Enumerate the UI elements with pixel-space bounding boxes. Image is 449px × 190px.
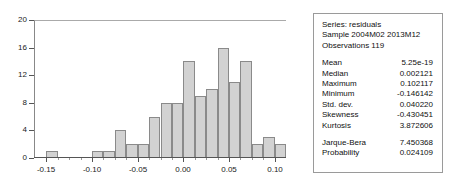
statistic-key: Probability: [322, 148, 359, 158]
x-axis-tick: [46, 158, 47, 162]
x-axis-label: -0.15: [26, 165, 66, 174]
y-axis-label: 0: [1, 154, 27, 162]
y-axis-tick: [29, 103, 34, 104]
histogram-bar: [275, 144, 286, 158]
y-axis-label: 4: [1, 126, 27, 134]
histogram-bar: [206, 89, 217, 158]
y-axis-tick: [29, 75, 34, 76]
histogram-bar: [240, 61, 251, 158]
x-axis-label: -0.10: [72, 165, 112, 174]
x-axis-label: -0.05: [118, 165, 158, 174]
histogram-bar: [126, 144, 137, 158]
statistics-header: Series: residualsSample 2004M02 2013M12O…: [322, 20, 435, 51]
statistic-row: Minimum-0.146142: [322, 89, 435, 99]
x-axis-minor-tick: [172, 158, 173, 160]
statistic-key: Jarque-Bera: [322, 138, 366, 148]
y-axis-label: 20: [1, 16, 27, 24]
statistic-value: 5.25e-19: [401, 58, 433, 68]
x-axis-tick: [138, 158, 139, 162]
histogram-bar: [263, 137, 274, 158]
statistics-header-line: Sample 2004M02 2013M12: [322, 30, 435, 40]
normality-test-row: Probability0.024109: [322, 148, 435, 158]
statistic-key: Maximum: [322, 79, 357, 89]
statistic-value: 0.002121: [400, 69, 433, 79]
x-axis-minor-tick: [69, 158, 70, 160]
statistic-key: Median: [322, 69, 348, 79]
x-axis-minor-tick: [149, 158, 150, 160]
x-axis-minor-tick: [161, 158, 162, 160]
statistics-header-line: Observations 119: [322, 41, 435, 51]
statistic-key: Mean: [322, 58, 342, 68]
x-axis-minor-tick: [58, 158, 59, 160]
histogram-bar: [252, 144, 263, 158]
x-axis-minor-tick: [126, 158, 127, 160]
histogram-bar: [172, 103, 183, 158]
x-axis-minor-tick: [240, 158, 241, 160]
statistics-header-line: Series: residuals: [322, 20, 435, 30]
y-axis-tick: [29, 130, 34, 131]
statistic-key: Std. dev.: [322, 100, 353, 110]
y-axis-label: 16: [1, 44, 27, 52]
histogram-bar: [149, 117, 160, 158]
histogram-bar: [218, 48, 229, 158]
statistic-key: Kurtosis: [322, 121, 351, 131]
normality-test-row: Jarque-Bera7.450368: [322, 138, 435, 148]
y-axis-label: 12: [1, 71, 27, 79]
x-axis-minor-tick: [218, 158, 219, 160]
statistic-value: 0.040220: [400, 100, 433, 110]
x-axis-tick: [183, 158, 184, 162]
histogram-bars: [35, 20, 286, 158]
statistic-value: 0.102117: [400, 79, 433, 89]
statistic-row: Median0.002121: [322, 69, 435, 79]
histogram-bar: [183, 61, 194, 158]
x-axis-minor-tick: [206, 158, 207, 160]
normality-test-rows: Jarque-Bera7.450368Probability0.024109: [322, 138, 435, 159]
x-axis-line: [34, 157, 286, 158]
statistic-value: 7.450368: [400, 138, 433, 148]
x-axis-minor-tick: [195, 158, 196, 160]
statistic-row: Std. dev.0.040220: [322, 100, 435, 110]
x-axis-minor-tick: [115, 158, 116, 160]
histogram-bar: [229, 82, 240, 158]
x-axis-label: 0.05: [209, 165, 249, 174]
statistic-value: 0.024109: [400, 148, 433, 158]
x-axis-label: 0.00: [163, 165, 203, 174]
x-axis-minor-tick: [263, 158, 264, 160]
spacer: [322, 51, 435, 58]
statistics-rows: Mean5.25e-19Median0.002121Maximum0.10211…: [322, 58, 435, 131]
x-axis-label: 0.10: [255, 165, 295, 174]
histogram-bar: [138, 144, 149, 158]
y-axis-tick: [29, 20, 34, 21]
statistic-key: Minimum: [322, 89, 354, 99]
statistic-value: -0.430451: [397, 110, 433, 120]
statistic-row: Kurtosis3.872606: [322, 121, 435, 131]
histogram-bar: [195, 96, 206, 158]
y-axis-tick: [29, 158, 34, 159]
histogram-bar: [115, 130, 126, 158]
y-axis-label: 8: [1, 99, 27, 107]
x-axis-tick: [229, 158, 230, 162]
statistic-row: Mean5.25e-19: [322, 58, 435, 68]
histogram-figure: 201612840 -0.15-0.10-0.050.000.050.10 Se…: [0, 0, 449, 190]
statistic-row: Skewness-0.430451: [322, 110, 435, 120]
statistic-value: 3.872606: [400, 121, 433, 131]
statistic-row: Maximum0.102117: [322, 79, 435, 89]
statistic-value: -0.146142: [397, 89, 433, 99]
x-axis-minor-tick: [103, 158, 104, 160]
x-axis-minor-tick: [252, 158, 253, 160]
y-axis-tick: [29, 48, 34, 49]
statistics-panel: Series: residualsSample 2004M02 2013M12O…: [313, 13, 443, 173]
x-axis-tick: [92, 158, 93, 162]
histogram-bar: [161, 103, 172, 158]
x-axis-tick: [275, 158, 276, 162]
histogram-plot: 201612840 -0.15-0.10-0.050.000.050.10: [0, 0, 292, 190]
statistic-key: Skewness: [322, 110, 358, 120]
x-axis-minor-tick: [81, 158, 82, 160]
spacer: [322, 131, 435, 138]
